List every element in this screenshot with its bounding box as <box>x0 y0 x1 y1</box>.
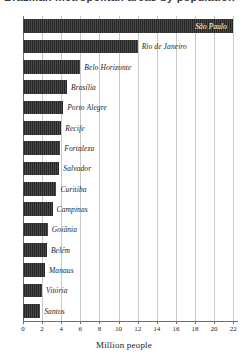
bar-curitiba <box>23 182 56 195</box>
tick-label-16: 16 <box>172 325 179 333</box>
bar-row: Brasília <box>23 80 238 93</box>
bar-label: Belo Horizonte <box>84 62 131 71</box>
bar-belo-horizonte <box>23 60 80 73</box>
bar-label: Salvador <box>63 164 91 173</box>
x-axis-label: Million people <box>0 340 248 350</box>
bars-group: São PauloRio de JaneiroBelo HorizonteBra… <box>23 16 238 321</box>
bar-label: Santos <box>44 306 65 315</box>
tick-18 <box>195 321 196 324</box>
bar-label: Fortaleza <box>64 144 94 153</box>
bar-label: Goiânia <box>52 225 77 234</box>
tick-label-22: 22 <box>230 325 237 333</box>
tick-12 <box>138 321 139 324</box>
bar-vitória <box>23 284 42 297</box>
bar-recife <box>23 121 61 134</box>
bar-row: Belém <box>23 243 238 256</box>
tick-20 <box>214 321 215 324</box>
tick-label-4: 4 <box>59 325 63 333</box>
bar-row: Santos <box>23 304 238 317</box>
tick-label-2: 2 <box>40 325 44 333</box>
tick-label-14: 14 <box>153 325 160 333</box>
bar-rio-de-janeiro <box>23 40 138 53</box>
bar-fortaleza <box>23 141 60 154</box>
bar-manaus <box>23 263 45 276</box>
bar-row: Manaus <box>23 263 238 276</box>
bar-belém <box>23 243 47 256</box>
bar-label: Brasília <box>71 83 96 92</box>
bar-row: Vitória <box>23 284 238 297</box>
tick-label-18: 18 <box>192 325 199 333</box>
x-axis-line <box>23 321 238 322</box>
chart-title: Brazilian metropolitan areas by populati… <box>4 0 235 3</box>
bar-chart: Brazilian metropolitan areas by populati… <box>0 0 248 357</box>
bar-brasília <box>23 80 67 93</box>
tick-6 <box>80 321 81 324</box>
tick-label-10: 10 <box>115 325 122 333</box>
bar-label: Porto Alegre <box>67 103 107 112</box>
tick-label-12: 12 <box>134 325 141 333</box>
bar-row: Goiânia <box>23 223 238 236</box>
bar-row: Curitiba <box>23 182 238 195</box>
chart-title-clipped: Brazilian metropolitan areas by populati… <box>0 0 248 11</box>
bar-salvador <box>23 162 59 175</box>
bar-row: São Paulo <box>23 19 238 32</box>
tick-label-8: 8 <box>98 325 102 333</box>
bar-label: Manaus <box>49 266 74 275</box>
tick-8 <box>99 321 100 324</box>
tick-label-0: 0 <box>21 325 25 333</box>
bar-campinas <box>23 202 53 215</box>
bar-row: Campinas <box>23 202 238 215</box>
bar-label: Curitiba <box>60 184 86 193</box>
plot-area: São PauloRio de JaneiroBelo HorizonteBra… <box>23 16 238 321</box>
tick-22 <box>233 321 234 324</box>
bar-label: São Paulo <box>195 22 227 31</box>
tick-16 <box>176 321 177 324</box>
bar-row: Belo Horizonte <box>23 60 238 73</box>
bar-row: Fortaleza <box>23 141 238 154</box>
bar-label: Belém <box>51 245 70 254</box>
tick-14 <box>157 321 158 324</box>
tick-10 <box>119 321 120 324</box>
bar-row: Rio de Janeiro <box>23 40 238 53</box>
tick-2 <box>42 321 43 324</box>
bar-label: Campinas <box>57 205 88 214</box>
bar-label: Recife <box>65 123 84 132</box>
tick-4 <box>61 321 62 324</box>
bar-row: Porto Alegre <box>23 101 238 114</box>
bar-label: Vitória <box>46 286 67 295</box>
tick-label-20: 20 <box>211 325 218 333</box>
bar-row: Recife <box>23 121 238 134</box>
bar-row: Salvador <box>23 162 238 175</box>
tick-label-6: 6 <box>79 325 83 333</box>
bar-goiânia <box>23 223 48 236</box>
bar-porto-alegre <box>23 101 63 114</box>
bar-santos <box>23 304 40 317</box>
bar-label: Rio de Janeiro <box>142 42 187 51</box>
tick-0 <box>23 321 24 324</box>
